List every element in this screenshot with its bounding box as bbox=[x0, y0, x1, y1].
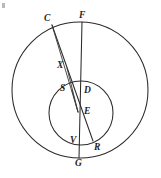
point-label-V: V bbox=[70, 136, 76, 146]
figure-canvas bbox=[0, 0, 161, 178]
point-label-E: E bbox=[84, 107, 90, 117]
point-label-R: R bbox=[94, 143, 100, 153]
segment-f-to-g bbox=[79, 22, 82, 158]
point-label-F: F bbox=[79, 11, 85, 21]
point-label-G: G bbox=[75, 159, 82, 169]
point-label-S: S bbox=[60, 84, 65, 94]
geometry-figure: C F X S D E V R G bbox=[0, 0, 161, 178]
segment-c-to-r bbox=[52, 25, 93, 141]
point-label-C: C bbox=[44, 14, 50, 24]
point-label-D: D bbox=[84, 86, 91, 96]
segment-c-to-e bbox=[52, 25, 78, 112]
point-label-X: X bbox=[57, 61, 63, 71]
